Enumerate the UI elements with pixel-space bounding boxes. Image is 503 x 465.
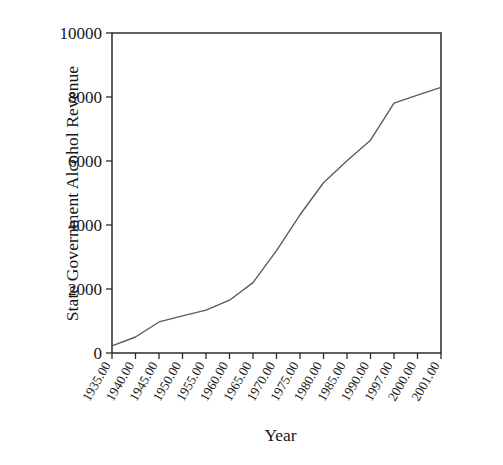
chart-figure: State Government Alcohol Revenue 0200040… [0,0,503,465]
plot-frame [112,33,441,353]
data-series-group [112,87,441,346]
x-axis-ticks: 1935.001940.001945.001950.001955.001960.… [79,353,443,404]
y-axis-title: State Government Alcohol Revenue [62,29,83,359]
data-line-revenue [112,87,441,346]
x-axis-title: Year [0,425,503,446]
x-axis-title-text: Year [264,425,296,446]
